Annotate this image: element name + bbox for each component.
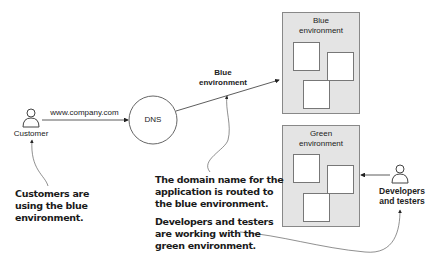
- domain-note-line1: The domain name for the: [155, 174, 283, 186]
- url-label: www.company.com: [42, 108, 127, 118]
- green-title-line2: environment: [283, 139, 359, 149]
- customers-callout-line: [32, 140, 48, 186]
- server-box: [327, 165, 354, 194]
- server-box: [293, 154, 320, 183]
- developers-label-line2: and testers: [375, 196, 429, 206]
- domain-note-line3: the blue environment.: [155, 198, 283, 210]
- developers-note-line2: are working with the: [155, 228, 273, 240]
- route-label-line1: Blue: [188, 68, 258, 78]
- green-title-line1: Green: [283, 129, 359, 139]
- developers-note-line1: Developers and testers: [155, 216, 273, 228]
- customers-note: Customers are using the blue environment…: [15, 188, 89, 224]
- server-box: [303, 80, 330, 109]
- customers-note-line3: environment.: [15, 212, 89, 224]
- customers-note-line1: Customers are: [15, 188, 89, 200]
- green-environment-title: Green environment: [283, 129, 359, 149]
- customer-label: Customer: [6, 129, 56, 139]
- customer-person-icon: [23, 109, 39, 127]
- blue-title-line2: environment: [283, 26, 359, 36]
- domain-note: The domain name for the application is r…: [155, 174, 283, 210]
- blue-environment-box[interactable]: Blue environment: [282, 12, 360, 114]
- developers-note-line3: green environment.: [155, 240, 273, 252]
- developers-person-icon: [392, 165, 408, 183]
- server-box: [303, 193, 330, 222]
- domain-note-line2: application is routed to: [155, 186, 283, 198]
- route-label: Blue environment: [188, 68, 258, 88]
- route-label-line2: environment: [188, 78, 258, 88]
- customers-note-line2: using the blue: [15, 200, 89, 212]
- dns-label: DNS: [133, 115, 173, 125]
- domain-callout-line: [208, 96, 230, 172]
- developers-note: Developers and testers are working with …: [155, 216, 273, 252]
- green-environment-box[interactable]: Green environment: [282, 125, 360, 227]
- server-box: [293, 42, 320, 71]
- blue-environment-title: Blue environment: [283, 16, 359, 36]
- blue-title-line1: Blue: [283, 16, 359, 26]
- developers-label-line1: Developers: [375, 186, 429, 196]
- server-box: [327, 52, 354, 81]
- developers-label: Developers and testers: [375, 186, 429, 206]
